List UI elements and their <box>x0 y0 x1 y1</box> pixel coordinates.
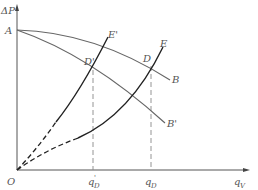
point-B-label: B <box>171 74 179 85</box>
x-axis-label-sub: V <box>240 182 246 190</box>
tick-q-d-prime-sub: D <box>93 182 100 190</box>
origin-label: O <box>7 176 15 187</box>
y-axis-arrow-icon <box>15 4 19 11</box>
point-D-label: D <box>142 53 151 64</box>
point-E-label: E <box>159 38 168 49</box>
x-axis-label: q V <box>234 176 246 190</box>
tick-q-d-sub: D <box>150 182 157 190</box>
tick-q-d-prime-prime: ' <box>94 174 96 182</box>
fan-curve-AB-prime <box>17 30 165 123</box>
axes <box>15 4 250 172</box>
point-B-prime-label: B' <box>166 118 177 129</box>
point-A-label: A <box>4 25 12 36</box>
point-E-prime-label: E' <box>107 29 118 40</box>
y-axis-label: ΔP <box>0 5 15 16</box>
tick-q-d-prime: q ' D <box>88 174 100 190</box>
system-curve-E-dashed <box>17 138 78 170</box>
tick-q-d: q D <box>145 176 157 190</box>
system-curve-E-prime-dashed <box>17 122 56 170</box>
point-D-prime-label: D' <box>83 56 95 67</box>
fan-system-characteristic-diagram: ΔP O q V A E' D' E D B B' q ' D q D <box>0 0 258 190</box>
x-axis-arrow-icon <box>243 168 250 172</box>
